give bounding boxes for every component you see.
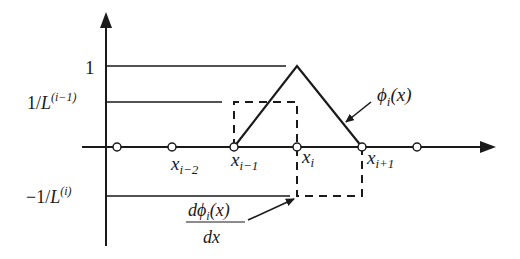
y-axis-arrow-icon — [100, 12, 112, 28]
node-0 — [113, 143, 121, 151]
label-x-i-minus-2: xi−2 — [170, 153, 199, 177]
label-neg-inv-L: −1/L(i) — [26, 184, 72, 207]
svg-text:dϕi(x): dϕi(x) — [188, 200, 230, 223]
derivative-pointer-arrow-icon — [248, 199, 294, 220]
svg-text:dx: dx — [203, 227, 220, 247]
label-one: 1 — [85, 57, 95, 78]
basis-function-diagram: 1 1/L(i−1) −1/L(i) xi−2 xi−1 xi xi+1 ϕi(… — [0, 0, 520, 259]
label-x-i-plus-1: xi+1 — [366, 147, 394, 171]
node-x-i — [293, 143, 301, 151]
node-x-i-plus-1 — [358, 143, 366, 151]
label-pos-inv-L: 1/L(i−1) — [27, 90, 76, 113]
label-x-i: xi — [301, 146, 314, 170]
node-5 — [413, 143, 421, 151]
x-axis-arrow-icon — [480, 141, 496, 153]
phi-pointer-arrow-icon — [346, 102, 371, 122]
label-derivative: dϕi(x) dx — [186, 200, 245, 247]
node-x-i-minus-2 — [168, 143, 176, 151]
label-x-i-minus-1: xi−1 — [230, 149, 258, 173]
label-phi: ϕi(x) — [377, 84, 412, 109]
